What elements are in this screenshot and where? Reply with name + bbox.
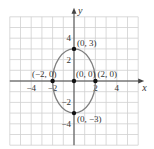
y-tick-label: −4 [61,119,71,129]
x-tick-label: −4 [26,83,36,93]
data-point [72,79,76,83]
data-point [72,111,76,115]
point-label: (2, 0) [97,69,117,79]
y-tick-label: 4 [67,33,72,43]
point-label: (0, 0) [76,69,96,79]
x-axis-label: x [141,82,147,93]
point-label: (0, −3) [77,114,102,124]
point-label: (−2, 0) [32,69,57,79]
point-label: (0, 3) [77,38,97,48]
data-point [50,79,54,83]
y-axis-arrow-icon [72,8,77,14]
data-point [93,79,97,83]
y-tick-label: 2 [67,55,72,65]
data-point [72,47,76,51]
x-tick-label: 4 [115,83,120,93]
y-axis-label: y [77,5,83,16]
y-tick-label: −2 [61,97,71,107]
ellipse-graph: xy −4−224−4−224 (0, 3)(−2, 0)(0, 0)(2, 0… [0,0,154,149]
